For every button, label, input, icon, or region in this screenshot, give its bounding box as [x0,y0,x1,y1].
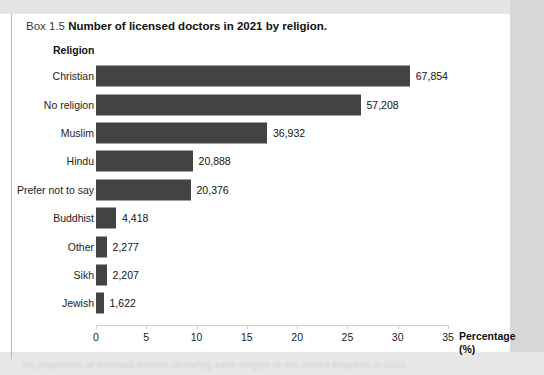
box-title: Number of licensed doctors in 2021 by re… [68,20,327,32]
bar-value-label: 57,208 [367,99,399,111]
x-axis-tick [297,325,298,329]
bar-row: Jewish1,622 [22,289,510,317]
bar-row: Sikh2,207 [22,261,510,289]
box-number: Box 1.5 [26,20,65,32]
bar-category-label: No religion [44,99,94,111]
bar [96,151,193,172]
page-margin-right [510,0,544,375]
x-axis-title: Percentage (%) [459,330,529,356]
bar-value-label: 2,207 [113,269,139,281]
x-axis-tick [347,325,348,329]
bar-category-label: Buddhist [53,212,94,224]
page-left-rule [11,14,12,359]
bar-category-label: Muslim [61,127,94,139]
page-margin-top [0,0,544,14]
bar-row: Other2,277 [22,232,510,260]
x-axis-tick [197,325,198,329]
bar [96,293,104,314]
bar-value-label: 4,418 [122,212,148,224]
x-axis-title-line2: (%) [459,343,529,356]
bar-category-label: Sikh [74,269,94,281]
x-axis-tick-label: 0 [93,331,99,343]
x-axis-tick [247,325,248,329]
bar-row: Muslim36,932 [22,119,510,147]
x-axis-tick [146,325,147,329]
x-axis-tick [448,325,449,329]
x-axis-tick-label: 20 [291,331,303,343]
bar [96,179,191,200]
x-axis-tick-label: 30 [392,331,404,343]
x-axis-tick-label: 35 [442,331,454,343]
y-axis-title: Religion [53,44,94,56]
bar [96,66,410,87]
bar-category-label: Christian [53,70,94,82]
bar-row: Buddhist4,418 [22,204,510,232]
bar-chart-plot-area: Christian67,854No religion57,208Muslim36… [22,62,510,328]
bar [96,94,361,115]
x-axis-tick [96,325,97,329]
x-axis-line [96,325,448,326]
bar-category-label: Hindu [67,155,94,167]
bar-value-label: 67,854 [416,70,448,82]
bar-row: Hindu20,888 [22,147,510,175]
bar-value-label: 20,888 [199,155,231,167]
bar-row: Christian67,854 [22,62,510,90]
bar-category-label: Other [68,241,94,253]
x-axis-tick-label: 15 [241,331,253,343]
x-axis-tick-label: 25 [342,331,354,343]
bar-category-label: Jewish [62,297,94,309]
bar [96,264,107,285]
box-caption: Box 1.5 Number of licensed doctors in 20… [26,20,327,32]
scanned-page: Box 1.5 Number of licensed doctors in 20… [0,0,544,375]
x-axis-title-line1: Percentage [459,330,529,343]
chart-container: Religion Christian67,854No religion57,20… [22,38,510,352]
bar [96,122,267,143]
bar-category-label: Prefer not to say [17,184,94,196]
bar-value-label: 2,277 [113,241,139,253]
x-axis-tick-label: 5 [143,331,149,343]
bar [96,236,107,257]
bar-value-label: 1,622 [110,297,136,309]
x-axis-tick-label: 10 [191,331,203,343]
bar-value-label: 20,376 [197,184,229,196]
page-bleed-text: the proportion of licensed doctors decla… [22,360,492,371]
x-axis-tick [398,325,399,329]
bar-row: No religion57,208 [22,90,510,118]
bar [96,208,116,229]
bar-value-label: 36,932 [273,127,305,139]
bar-row: Prefer not to say20,376 [22,176,510,204]
